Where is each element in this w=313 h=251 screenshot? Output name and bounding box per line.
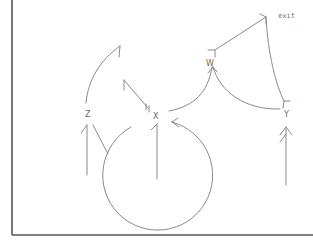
edge-z-to-circle	[93, 125, 108, 154]
edge-entry-to-x	[151, 124, 157, 179]
node-z: Z	[85, 110, 91, 119]
node-w-label: W	[206, 59, 214, 68]
edge-x-self-loop	[103, 118, 213, 230]
edge-y-to-w	[208, 67, 280, 109]
edge-z-upward-arc	[86, 46, 120, 103]
arrowhead-icon	[151, 124, 157, 130]
edge-into-x-diagonal	[124, 80, 149, 112]
arrowhead-icon	[283, 101, 290, 108]
arrowhead-icon	[81, 125, 87, 133]
edge-exit-to-y	[266, 17, 290, 108]
node-y-label: Y	[283, 110, 289, 119]
node-exit-label: exit	[278, 12, 295, 20]
arrowhead-icon	[172, 118, 179, 127]
arrowhead-icon	[280, 134, 286, 142]
node-w-bracket	[208, 50, 215, 57]
node-y: Y	[283, 110, 289, 119]
edge-w-to-exit	[215, 17, 266, 50]
diagram-canvas: Z X W	[0, 0, 313, 251]
edge-x-to-w	[169, 67, 212, 111]
node-z-label: Z	[85, 110, 91, 119]
edge-entry-to-y	[280, 127, 292, 185]
edge-entry-to-z	[81, 125, 87, 175]
node-x: X	[153, 112, 159, 121]
arrowhead-icon	[119, 46, 120, 57]
node-w: W	[206, 50, 215, 68]
node-x-label: X	[153, 112, 159, 121]
